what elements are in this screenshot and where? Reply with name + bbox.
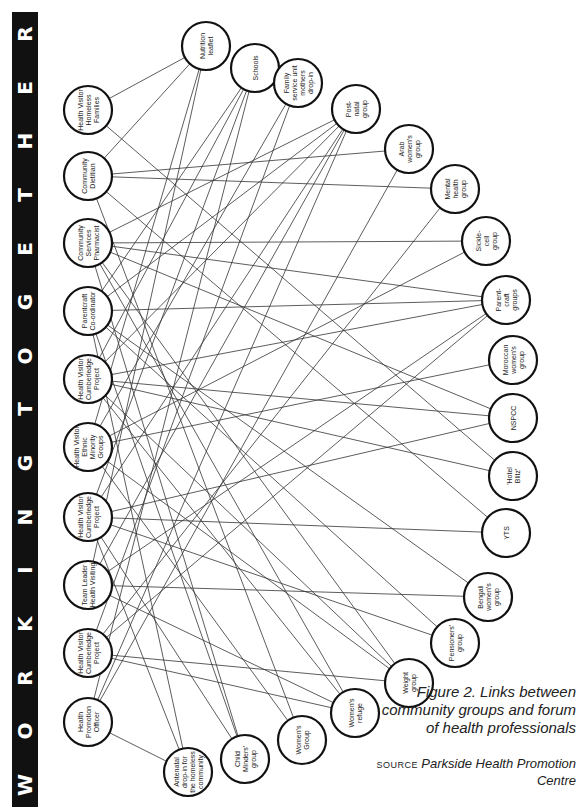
community-group-node: Schools xyxy=(231,44,279,92)
professional-node: Health VisitorCumberledgeProject xyxy=(64,493,112,541)
node-layer: Health VisitorHomelessFamiliesCommunityD… xyxy=(64,22,537,796)
link-line xyxy=(88,176,455,189)
professional-node: ParentcraftCo-ordinator xyxy=(64,287,112,335)
link-line xyxy=(88,379,355,713)
link-line xyxy=(88,243,506,300)
node-label: Schools xyxy=(252,55,259,80)
node-label: YTS xyxy=(503,526,510,540)
node-label: Mentalhealthgroup xyxy=(444,178,468,199)
link-line xyxy=(88,176,506,533)
node-label: Nutritionleaflet xyxy=(199,33,214,59)
link-line xyxy=(88,447,302,740)
community-group-node: Post-natalgroup xyxy=(332,85,380,133)
community-group-node: 'HotelBlitz' xyxy=(489,452,537,500)
professional-node: CommunityDietitian xyxy=(64,152,112,200)
link-line xyxy=(88,585,355,713)
community-group-node: Moroccanwomen'sgroup xyxy=(489,336,537,384)
link-line xyxy=(88,68,255,722)
community-group-node: Nutritionleaflet xyxy=(182,22,230,70)
link-line xyxy=(88,379,513,476)
link-line xyxy=(88,68,255,311)
professional-node: Health VisitorCumberledgeProject xyxy=(64,355,112,403)
link-line xyxy=(88,241,486,243)
link-line xyxy=(88,149,409,722)
link-line xyxy=(88,300,506,379)
link-line xyxy=(88,379,409,683)
community-group-node: Antenataldrop-in forthe homelesscommunit… xyxy=(164,748,212,796)
link-line xyxy=(88,653,355,713)
figure-caption: Figure 2. Links between community groups… xyxy=(366,683,576,737)
node-label: NSPCC xyxy=(510,406,517,431)
node-label: CommunityServicesPharmacist xyxy=(77,225,100,261)
professional-node: Team LeaderHealth Visiting xyxy=(64,561,112,609)
professional-node: Health VisitorHomelessFamilies xyxy=(64,86,112,134)
community-group-node: NSPCC xyxy=(489,394,537,442)
professional-node: CommunityServicesPharmacist xyxy=(64,219,112,267)
link-line xyxy=(88,109,356,379)
professional-node: Health VisitorEthnicMinorityGroups xyxy=(64,423,112,471)
node-label: ParentcraftCo-ordinator xyxy=(81,291,96,331)
node-label: Team LeaderHealth Visiting xyxy=(81,563,97,608)
community-group-node: Pensioners'group xyxy=(431,619,479,667)
community-group-node: Women'sGroup xyxy=(278,716,326,764)
link-line xyxy=(88,83,298,653)
community-group-node: Sickle-cellgroup xyxy=(462,217,510,265)
link-line xyxy=(88,418,513,517)
community-group-node: Mentalhealthgroup xyxy=(431,165,479,213)
professional-node: HealthPromotionOfficer xyxy=(64,698,112,746)
link-line xyxy=(88,517,506,533)
link-line xyxy=(88,360,513,447)
source-organisation: Parkside Health Promotion Centre xyxy=(421,756,576,788)
source-label: SOURCE xyxy=(377,760,419,770)
community-group-node: Parent-craftgroups xyxy=(482,276,530,324)
node-label: 'HotelBlitz' xyxy=(506,467,521,485)
community-group-node: ChildMinders'group xyxy=(221,735,269,783)
community-group-node: YTS xyxy=(482,509,530,557)
link-line xyxy=(88,653,409,683)
figure-source: SOURCE Parkside Health Promotion Centre xyxy=(366,756,576,789)
node-label: Post-natalgroup xyxy=(345,100,369,118)
link-line xyxy=(88,447,409,683)
community-group-node: Arabwomen'sgroup xyxy=(385,125,433,173)
link-line xyxy=(88,300,506,585)
community-group-node: Bengaliwomen'sgroup xyxy=(464,573,512,621)
link-line xyxy=(88,300,506,311)
professional-node: Health VisitorCumberledgeProject xyxy=(64,629,112,677)
link-line xyxy=(88,243,245,759)
link-line xyxy=(88,311,455,643)
community-group-node: Familyservice unitmothersdrop-in xyxy=(274,59,322,107)
